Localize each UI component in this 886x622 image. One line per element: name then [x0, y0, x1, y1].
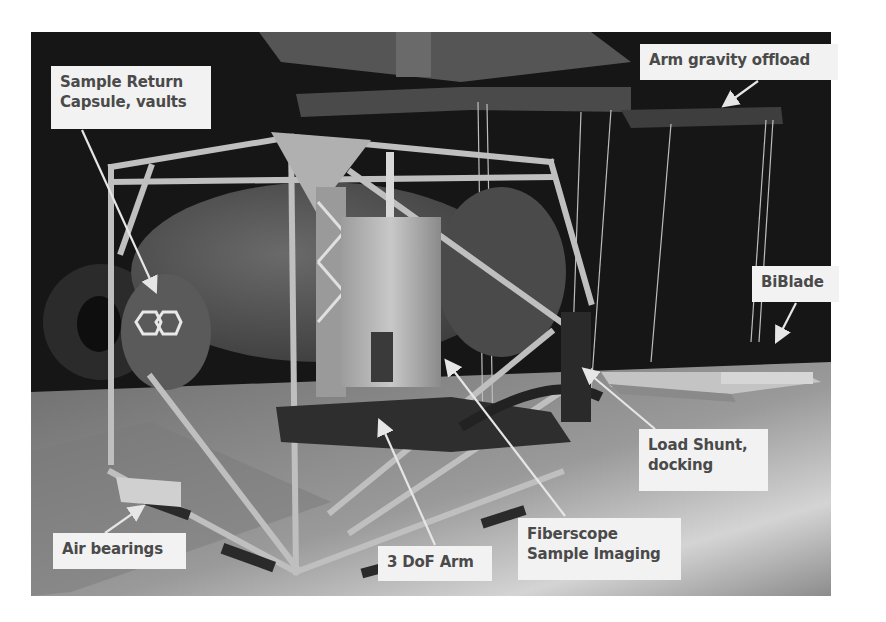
label-line: Capsule, vaults — [60, 92, 202, 112]
annotated-photo-figure: Sample Return Capsule, vaults Arm gravit… — [0, 0, 886, 622]
label-line: Fiberscope — [527, 524, 672, 544]
label-air-bearings: Air bearings — [53, 533, 186, 569]
label-line: BiBlade — [761, 272, 830, 292]
label-load-shunt-docking: Load Shunt, docking — [639, 429, 768, 491]
label-biblade: BiBlade — [752, 266, 839, 302]
label-sample-return-capsule: Sample Return Capsule, vaults — [51, 66, 211, 129]
sample-return-capsule — [121, 274, 211, 390]
label-line: 3 DoF Arm — [387, 552, 483, 572]
label-line: Air bearings — [62, 539, 177, 559]
label-line: Sample Return — [60, 72, 202, 92]
label-fiberscope-sample-imaging: Fiberscope Sample Imaging — [518, 518, 681, 580]
label-3dof-arm: 3 DoF Arm — [378, 546, 492, 581]
label-line: Arm gravity offload — [649, 50, 829, 70]
label-line: Sample Imaging — [527, 544, 672, 564]
label-line: docking — [648, 455, 759, 475]
load-shunt — [561, 312, 591, 422]
label-line: Load Shunt, — [648, 435, 759, 455]
label-arm-gravity-offload: Arm gravity offload — [640, 44, 838, 80]
